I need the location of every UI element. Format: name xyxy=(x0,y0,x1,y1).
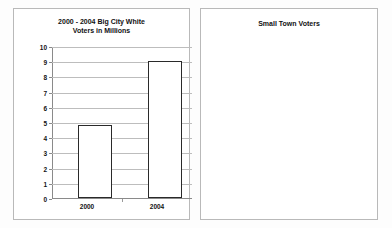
chart-title-line-2: Voters in Millions xyxy=(14,26,189,35)
y-tick-label-2: 2 xyxy=(43,165,47,172)
bar-2000 xyxy=(78,125,112,198)
plot-area-big-city: 10 9 8 7 6 5 4 3 2 xyxy=(52,47,192,199)
y-tick-8 xyxy=(49,77,52,78)
y-tick-3 xyxy=(49,153,52,154)
y-tick-label-8: 8 xyxy=(43,74,47,81)
y-tick-4 xyxy=(49,138,52,139)
y-tick-label-0: 0 xyxy=(43,196,47,203)
y-tick-7 xyxy=(49,93,52,94)
y-tick-label-9: 9 xyxy=(43,59,47,66)
y-tick-10 xyxy=(49,47,52,48)
y-tick-2 xyxy=(49,169,52,170)
y-tick-9 xyxy=(49,62,52,63)
chart-title-big-city: 2000 - 2004 Big City White Voters in Mil… xyxy=(14,17,189,35)
x-axis-labels-big-city: 2000 2004 xyxy=(52,203,192,215)
chart-title-small-town: Small Town Voters xyxy=(201,19,377,28)
bar-2004 xyxy=(148,61,182,198)
x-tick-label-2000: 2000 xyxy=(52,203,122,211)
chart-panel-big-city: 2000 - 2004 Big City White Voters in Mil… xyxy=(13,8,190,220)
y-tick-label-4: 4 xyxy=(43,135,47,142)
chart-panel-small-town: Small Town Voters 6.000 5.000 4.000 3.00… xyxy=(200,8,378,220)
x-category-separator xyxy=(122,199,123,202)
y-tick-label-3: 3 xyxy=(43,150,47,157)
chart-title-line-1: 2000 - 2004 Big City White xyxy=(14,17,189,26)
y-tick-label-5: 5 xyxy=(43,120,47,127)
y-tick-label-7: 7 xyxy=(43,89,47,96)
y-tick-label-6: 6 xyxy=(43,104,47,111)
y-tick-label-10: 10 xyxy=(40,44,47,51)
y-tick-0 xyxy=(49,199,52,200)
y-tick-6 xyxy=(49,108,52,109)
y-tick-label-1: 1 xyxy=(43,180,47,187)
gridline-10 xyxy=(52,47,192,48)
y-tick-5 xyxy=(49,123,52,124)
chart-page: 2000 - 2004 Big City White Voters in Mil… xyxy=(0,0,392,228)
x-tick-label-2004: 2004 xyxy=(122,203,192,211)
y-tick-1 xyxy=(49,184,52,185)
